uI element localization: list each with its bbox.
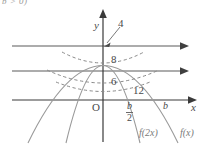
math-figure <box>0 0 210 149</box>
label-12: 12 <box>133 85 144 96</box>
leader-arrow-4 <box>104 27 120 47</box>
y-axis <box>99 9 107 142</box>
legend-f-of-x: f(x) <box>180 128 194 138</box>
axis-label-x: x <box>191 102 196 113</box>
horizontal-line-upper <box>12 42 189 50</box>
label-4: 4 <box>118 18 124 29</box>
x-tick-b: b <box>163 101 168 111</box>
label-8: 8 <box>111 54 117 65</box>
origin-label: O <box>92 102 100 113</box>
label-6: 6 <box>111 76 117 87</box>
horizontal-line-middle <box>12 67 189 75</box>
x-axis <box>12 96 197 104</box>
x-tick-b-over-2: b 2 <box>126 101 133 123</box>
axis-label-y: y <box>94 20 99 31</box>
b-half-denominator: 2 <box>127 112 132 123</box>
legend-f-of-2x: f(2x) <box>139 128 158 138</box>
b-half-numerator: b <box>127 100 132 111</box>
